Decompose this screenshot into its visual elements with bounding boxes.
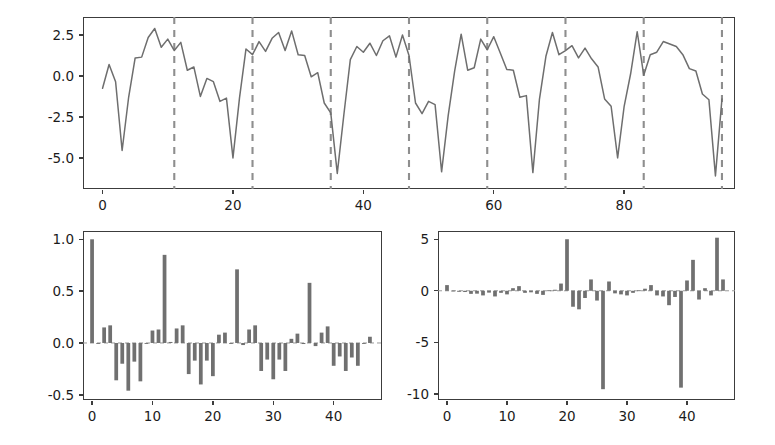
- pacf-ytick-label: -5: [416, 334, 429, 350]
- pacf-panel: 50-5-10010203040: [390, 222, 775, 445]
- pacf-ytick-label: 5: [420, 231, 429, 247]
- acf-ytick-mark: [79, 290, 83, 291]
- correlation-bar: [265, 343, 269, 360]
- correlation-bar: [703, 288, 707, 291]
- correlation-bar: [169, 342, 173, 343]
- correlation-bar: [283, 343, 287, 371]
- series-ytick-mark: [79, 116, 83, 117]
- acf-ytick-label: 0.5: [53, 283, 74, 299]
- correlation-bar: [535, 291, 539, 294]
- correlation-bar: [205, 343, 209, 361]
- acf-xtick-mark: [152, 401, 153, 405]
- pacf-xtick-label: 40: [678, 408, 695, 424]
- correlation-bar: [259, 343, 263, 371]
- pacf-xtick-label: 30: [618, 408, 635, 424]
- pacf-ytick-label: -10: [407, 386, 429, 402]
- correlation-bar: [511, 288, 515, 291]
- correlation-bar: [175, 328, 179, 343]
- correlation-bar: [445, 285, 449, 291]
- correlation-bar: [487, 291, 491, 293]
- pacf-ytick-mark: [434, 393, 438, 394]
- series-xtick-mark: [363, 190, 364, 194]
- correlation-bar: [697, 291, 701, 300]
- correlation-bar: [253, 325, 257, 343]
- correlation-bar: [302, 343, 306, 344]
- correlation-bar: [132, 343, 136, 362]
- correlation-bar: [601, 291, 605, 389]
- series-xtick-label: 80: [616, 197, 633, 213]
- correlation-bar: [271, 343, 275, 379]
- correlation-bar: [326, 326, 330, 343]
- correlation-bar: [643, 289, 647, 291]
- acf-xtick-label: 10: [144, 408, 161, 424]
- acf-ytick-mark: [79, 394, 83, 395]
- series-xtick-mark: [623, 190, 624, 194]
- correlation-bar: [679, 291, 683, 388]
- pacf-ytick-mark: [434, 342, 438, 343]
- correlation-bar: [595, 291, 599, 301]
- correlation-bar: [102, 327, 106, 343]
- pacf-xtick-mark: [446, 401, 447, 405]
- correlation-bar: [667, 291, 671, 305]
- correlation-bar: [356, 343, 360, 366]
- correlation-bar: [187, 343, 191, 374]
- correlation-bar: [691, 260, 695, 291]
- acf-xtick-mark: [333, 401, 334, 405]
- correlation-bar: [523, 291, 527, 293]
- acf-xtick-label: 0: [88, 408, 97, 424]
- correlation-bar: [108, 325, 112, 343]
- correlation-bar: [217, 335, 221, 343]
- correlation-bar: [139, 343, 143, 381]
- correlation-bar: [320, 333, 324, 343]
- correlation-bar: [126, 343, 130, 391]
- correlation-bar: [571, 291, 575, 307]
- series-ytick-label: -2.5: [48, 109, 74, 125]
- correlation-bar: [625, 291, 629, 296]
- correlation-bar: [661, 291, 665, 297]
- correlation-bar: [235, 269, 239, 343]
- correlation-bar: [296, 334, 300, 343]
- correlation-bar: [619, 291, 623, 295]
- correlation-bar: [499, 291, 503, 293]
- correlation-bar: [565, 239, 569, 291]
- correlation-bar: [559, 284, 563, 291]
- correlation-bar: [637, 290, 641, 291]
- correlation-bar: [290, 339, 294, 343]
- correlation-bar: [583, 291, 587, 298]
- correlation-bar: [655, 291, 659, 296]
- acf-xtick-label: 40: [325, 408, 342, 424]
- series-ytick-label: -5.0: [48, 150, 74, 166]
- correlation-bar: [362, 343, 366, 344]
- pacf-xtick-label: 0: [443, 408, 452, 424]
- series-line-path: [103, 28, 722, 175]
- correlation-bar: [457, 291, 461, 292]
- series-ytick-label: 0.0: [53, 68, 74, 84]
- correlation-bar: [673, 291, 677, 297]
- correlation-bar: [229, 343, 233, 344]
- series-xtick-mark: [232, 190, 233, 194]
- correlation-bar: [193, 343, 197, 361]
- pacf-xtick-label: 10: [498, 408, 515, 424]
- acf-ytick-label: -0.5: [48, 387, 74, 403]
- correlation-bar: [475, 291, 479, 294]
- correlation-bar: [181, 325, 185, 343]
- correlation-bar: [649, 285, 653, 291]
- series-xtick-label: 60: [485, 197, 502, 213]
- correlation-bar: [338, 343, 342, 356]
- correlation-bar: [241, 343, 245, 345]
- series-ytick-label: 2.5: [53, 27, 74, 43]
- acf-panel: 1.00.50.0-0.5010203040: [0, 222, 390, 445]
- correlation-bar: [577, 291, 581, 310]
- correlation-bar: [308, 283, 312, 343]
- correlation-bar: [145, 343, 149, 344]
- series-xtick-mark: [493, 190, 494, 194]
- correlation-bar: [247, 330, 251, 343]
- correlation-bar: [709, 291, 713, 296]
- correlation-bar: [451, 291, 455, 292]
- correlation-bar: [223, 333, 227, 343]
- correlation-bar: [96, 343, 100, 344]
- correlation-bar: [589, 279, 593, 290]
- correlation-bar: [344, 343, 348, 371]
- correlation-bar: [631, 291, 635, 293]
- pacf-ytick-label: 0: [420, 283, 429, 299]
